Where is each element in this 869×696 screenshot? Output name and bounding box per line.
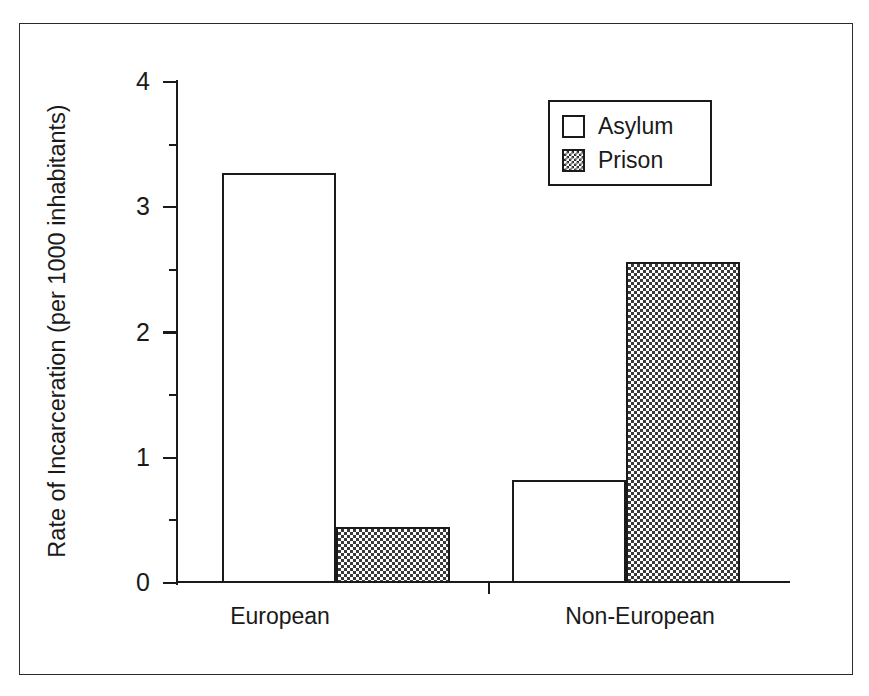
y-axis-tick-major bbox=[163, 582, 176, 584]
bar-non-european-prison bbox=[626, 262, 740, 583]
legend-item-asylum: Asylum bbox=[562, 109, 710, 143]
y-axis-tick-minor bbox=[169, 519, 176, 521]
bar-european-asylum bbox=[222, 173, 336, 583]
y-axis-tick-major bbox=[163, 81, 176, 83]
y-axis-tick-label: 3 bbox=[110, 194, 150, 219]
y-axis-tick-major bbox=[163, 457, 176, 459]
bar-non-european-asylum bbox=[512, 480, 626, 583]
x-axis-tick bbox=[488, 583, 490, 594]
x-axis-label-european: European bbox=[200, 602, 360, 630]
y-axis-tick-major bbox=[163, 206, 176, 208]
y-axis-line bbox=[176, 80, 178, 585]
y-axis-tick-label: 4 bbox=[110, 69, 150, 94]
y-axis-tick-minor bbox=[169, 394, 176, 396]
checkered-square-swatch bbox=[562, 149, 585, 172]
y-axis-tick-minor bbox=[169, 144, 176, 146]
legend-label-prison: Prison bbox=[598, 147, 663, 173]
y-axis-title: Rate of Incarceration (per 1000 inhabita… bbox=[44, 91, 70, 571]
y-axis-tick-label: 2 bbox=[110, 320, 150, 345]
y-axis-tick-minor bbox=[169, 269, 176, 271]
legend-item-prison: Prison bbox=[562, 143, 710, 177]
legend-label-asylum: Asylum bbox=[598, 113, 673, 139]
chart-legend: Asylum Prison bbox=[548, 100, 712, 186]
y-axis-tick-label: 0 bbox=[110, 570, 150, 595]
empty-square-swatch bbox=[562, 115, 585, 138]
y-axis-tick-label: 1 bbox=[110, 445, 150, 470]
y-axis-tick-major bbox=[163, 331, 176, 333]
bar-european-prison bbox=[336, 527, 450, 583]
x-axis-label-non-european: Non-European bbox=[540, 602, 740, 630]
chart-figure: Rate of Incarceration (per 1000 inhabita… bbox=[0, 0, 869, 696]
